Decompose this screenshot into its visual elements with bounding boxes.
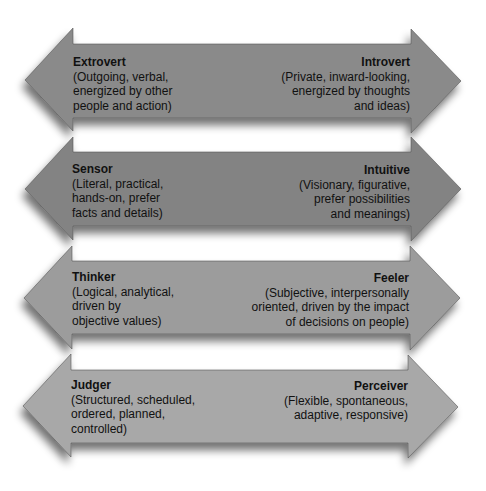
pole-description: (Subjective, interpersonally oriented, d… xyxy=(252,286,409,330)
pole-description: (Literal, practical, hands-on, prefer fa… xyxy=(72,177,163,221)
pole-description: (Logical, analytical, driven by objectiv… xyxy=(72,285,174,329)
pole-thinker: Thinker (Logical, analytical, driven by … xyxy=(72,270,174,328)
pole-judger: Judger (Structured, scheduled, ordered, … xyxy=(71,378,195,436)
pole-title: Sensor xyxy=(72,162,163,177)
pole-perceiver: Perceiver (Flexible, spontaneous, adapti… xyxy=(284,379,408,423)
pole-description: (Structured, scheduled, ordered, planned… xyxy=(71,393,195,437)
pole-title: Feeler xyxy=(252,271,409,286)
pole-title: Perceiver xyxy=(284,379,408,394)
personality-dimensions-diagram: Extrovert (Outgoing, verbal, energized b… xyxy=(0,0,486,491)
pole-extrovert: Extrovert (Outgoing, verbal, energized b… xyxy=(73,55,172,113)
pole-intuitive: Intuitive (Visionary, figurative, prefer… xyxy=(299,163,410,221)
pole-title: Thinker xyxy=(72,270,174,285)
pole-title: Introvert xyxy=(281,55,410,70)
pole-description: (Flexible, spontaneous, adaptive, respon… xyxy=(284,394,408,423)
pole-description: (Private, inward-looking, energized by t… xyxy=(281,70,410,114)
pole-description: (Visionary, figurative, prefer possibili… xyxy=(299,178,410,222)
pole-feeler: Feeler (Subjective, interpersonally orie… xyxy=(252,271,409,329)
pole-description: (Outgoing, verbal, energized by other pe… xyxy=(73,70,172,114)
pole-title: Intuitive xyxy=(299,163,410,178)
pole-title: Extrovert xyxy=(73,55,172,70)
pole-introvert: Introvert (Private, inward-looking, ener… xyxy=(281,55,410,113)
pole-sensor: Sensor (Literal, practical, hands-on, pr… xyxy=(72,162,163,220)
pole-title: Judger xyxy=(71,378,195,393)
